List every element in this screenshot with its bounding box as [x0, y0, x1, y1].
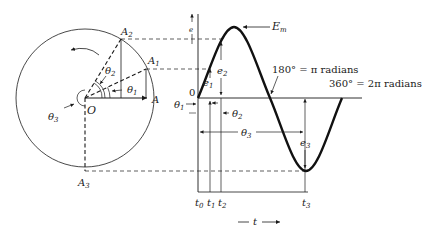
- label-e1: e1: [203, 77, 213, 90]
- theta1-arrow: [112, 90, 122, 91]
- label-e2: e2: [217, 65, 228, 78]
- label-origin: 0: [189, 87, 195, 98]
- label-e3: e3: [300, 137, 311, 150]
- label-wave-theta2: θ2: [232, 108, 243, 121]
- label-e-axis: e: [189, 26, 193, 34]
- label-A2: A2: [120, 26, 133, 39]
- sine-curve: [198, 27, 342, 171]
- label-theta2: θ2: [105, 65, 116, 78]
- theta1-arc: [108, 87, 110, 98]
- label-theta1: θ1: [127, 84, 138, 97]
- theta3-arc: [77, 90, 85, 106]
- annotation-180-pointer: [271, 76, 278, 94]
- rotation-arrow-icon: [71, 48, 99, 55]
- annotation-360: 360° = 2π radians: [329, 78, 422, 89]
- theta2-arrow: [100, 76, 106, 84]
- phasor-diagram: O A A1 A2 A3 θ1 θ2 θ3: [16, 26, 160, 190]
- label-A1: A1: [147, 55, 160, 68]
- label-wave-theta1: θ1: [174, 99, 185, 112]
- label-A3: A3: [77, 177, 90, 190]
- label-O: O: [87, 104, 96, 117]
- phasor-sine-diagram: O A A1 A2 A3 θ1 θ2 θ3 e 0 Em 180° = π ra…: [0, 0, 423, 235]
- sine-waveform: e 0 Em 180° = π radians 360° = 2π radian…: [174, 14, 422, 227]
- label-t3: t3: [302, 197, 311, 210]
- label-t0: t0: [195, 197, 204, 210]
- label-Em: Em: [271, 20, 287, 34]
- label-t1: t1: [207, 197, 216, 210]
- label-A: A: [151, 94, 159, 105]
- label-time-axis: t: [253, 216, 258, 227]
- label-wave-theta3: θ3: [241, 127, 252, 140]
- label-theta3: θ3: [48, 111, 59, 124]
- theta3-arrow: [64, 104, 74, 108]
- annotation-180: 180° = π radians: [272, 64, 358, 75]
- label-t2: t2: [218, 197, 227, 210]
